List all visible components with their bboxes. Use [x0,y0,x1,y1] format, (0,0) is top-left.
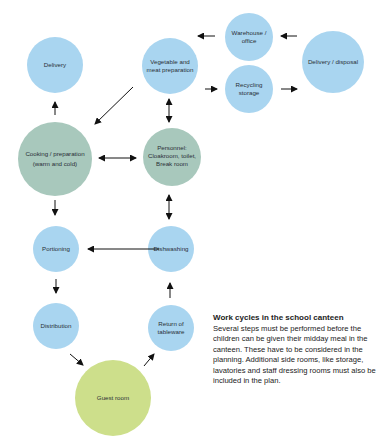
node-delivery: Delivery [27,37,83,93]
node-recycling-storage: Recycling storage [225,65,273,113]
node-label: Portioning [42,245,70,252]
caption-body: Several steps must be performed before t… [213,324,381,387]
node-label: (warm and cold) [33,160,77,167]
node-label: Warehouse / [232,29,267,36]
node-guest-room: Guest room [75,360,151,436]
node-label: Vegetable and [150,58,190,65]
node-label: Recycling [236,81,263,88]
node-portioning: Portioning [33,226,79,272]
arrow-distribution-to-guest [70,354,83,365]
node-label: Cooking / preparation [25,150,85,157]
node-distribution: Distribution [33,303,79,349]
node-label: Guest room [97,394,129,401]
node-label: Return of [158,320,184,327]
node-label: Distribution [41,322,73,329]
arrow-guest-to-return [144,354,154,366]
node-return-of-tableware: Return of tableware [148,305,194,351]
node-label: storage [239,89,260,96]
node-label: office [242,37,257,44]
node-label: Personnel: [157,144,187,151]
node-label: Break room [156,160,188,167]
node-label: Delivery / disposal [308,58,358,65]
caption-block: Work cycles in the school canteen Severa… [213,313,381,387]
node-label: Delivery [44,61,67,68]
node-personnel: Personnel: Cloakroom, toilet, Break room [143,128,201,186]
arrow-vegetable-to-cooking [95,87,133,124]
node-label: tableware [158,328,185,335]
node-label: Cloakroom, toilet, [148,152,196,159]
node-warehouse-office: Warehouse / office [225,13,273,61]
node-vegetable-meat-preparation: Vegetable and meat preparation [142,38,198,94]
node-label: meat preparation [147,66,194,73]
node-cooking-preparation: Cooking / preparation (warm and cold) [18,122,92,196]
node-delivery-disposal: Delivery / disposal [302,31,364,93]
caption-title: Work cycles in the school canteen [213,313,381,324]
